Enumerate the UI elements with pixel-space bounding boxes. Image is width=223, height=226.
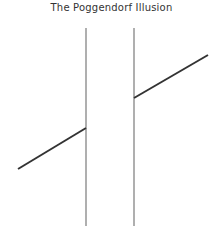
left-diagonal-segment (18, 128, 86, 169)
right-diagonal-segment (134, 55, 208, 98)
poggendorff-figure (0, 0, 223, 226)
